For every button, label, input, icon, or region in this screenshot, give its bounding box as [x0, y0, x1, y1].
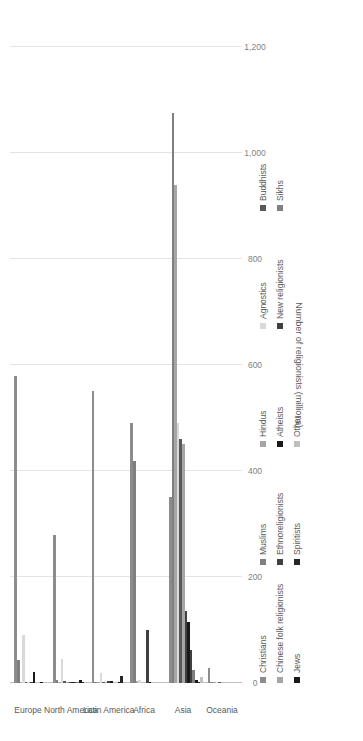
bar — [102, 682, 105, 683]
legend-item[interactable]: Ethnoreligionists — [275, 447, 285, 565]
bar-group — [208, 47, 242, 683]
legend-column: HindusAtheistsOther — [258, 329, 358, 447]
legend-swatch-icon — [260, 677, 266, 683]
legend-column: MuslimsEthnoreligionistsSpiritists — [258, 447, 358, 565]
bar — [33, 672, 36, 683]
legend-label: Buddhists — [258, 164, 268, 201]
legend-swatch-icon — [277, 205, 283, 211]
bar — [138, 680, 141, 683]
legend-label: Chinese folk religionists — [275, 584, 285, 673]
bar — [25, 682, 28, 683]
legend-swatch-icon — [260, 205, 266, 211]
legend-label: Agnostics — [258, 282, 268, 319]
legend-item[interactable]: Spiritists — [292, 447, 302, 565]
value-tick-label: 0 — [253, 678, 258, 688]
bar-group — [130, 47, 164, 683]
legend-label: Christians — [258, 635, 268, 673]
legend-item[interactable]: Agnostics — [258, 211, 268, 329]
legend-item[interactable]: Jews — [292, 565, 302, 683]
bar — [110, 681, 113, 683]
bar — [218, 682, 221, 683]
legend-swatch-icon — [260, 441, 266, 447]
bar — [14, 376, 17, 683]
bar — [162, 682, 165, 683]
legend-label: Spiritists — [292, 523, 302, 555]
legend-item[interactable]: Buddhists — [258, 93, 268, 211]
bar — [92, 392, 95, 684]
bar — [149, 682, 152, 683]
chart-figure: 02004006008001,0001,200 EuropeNorth Amer… — [0, 0, 363, 741]
bar-group — [169, 47, 203, 683]
bar — [200, 677, 203, 683]
legend-item[interactable]: Other — [292, 329, 302, 447]
chart-legend: ChristiansChinese folk religionistsJewsM… — [258, 43, 358, 683]
legend-swatch-icon — [277, 323, 283, 329]
bar — [40, 682, 43, 683]
legend-swatch-icon — [277, 441, 283, 447]
legend-swatch-icon — [294, 559, 300, 565]
legend-column: ChristiansChinese folk religionistsJews — [258, 565, 358, 683]
bar — [146, 630, 149, 683]
legend-swatch-icon — [294, 677, 300, 683]
bar — [61, 659, 64, 683]
bar-group — [92, 47, 126, 683]
bar — [46, 682, 49, 683]
bar — [84, 682, 87, 683]
legend-item[interactable]: Muslims — [258, 447, 268, 565]
legend-column: BuddhistsSikhs — [258, 93, 358, 211]
bar — [17, 660, 20, 683]
bar-group — [53, 47, 87, 683]
bar — [123, 682, 126, 683]
legend-label: Atheists — [275, 407, 285, 437]
bar-group — [14, 47, 48, 683]
legend-label: New religionists — [275, 259, 285, 319]
category-label: Oceania — [199, 705, 245, 715]
legend-swatch-icon — [260, 559, 266, 565]
legend-swatch-icon — [277, 559, 283, 565]
legend-label: Sikhs — [275, 180, 285, 201]
legend-item[interactable]: Christians — [258, 565, 268, 683]
legend-label: Hindus — [258, 411, 268, 437]
legend-label: Muslims — [258, 524, 268, 555]
legend-label: Other — [292, 416, 302, 437]
bar — [53, 535, 56, 683]
legend-swatch-icon — [277, 677, 283, 683]
rotated-figure-wrapper: 02004006008001,0001,200 EuropeNorth Amer… — [0, 0, 363, 741]
legend-item[interactable]: New religionists — [275, 211, 285, 329]
bar — [208, 668, 211, 683]
legend-item[interactable]: Hindus — [258, 329, 268, 447]
legend-swatch-icon — [294, 441, 300, 447]
legend-label: Ethnoreligionists — [275, 493, 285, 555]
bar — [133, 461, 136, 683]
legend-item[interactable]: Sikhs — [275, 93, 285, 211]
legend-swatch-icon — [260, 323, 266, 329]
legend-column: AgnosticsNew religionists — [258, 211, 358, 329]
legend-item[interactable]: Chinese folk religionists — [275, 565, 285, 683]
legend-label: Jews — [292, 654, 302, 673]
bar — [22, 635, 25, 683]
legend-item[interactable]: Atheists — [275, 329, 285, 447]
plot-area — [10, 47, 242, 683]
